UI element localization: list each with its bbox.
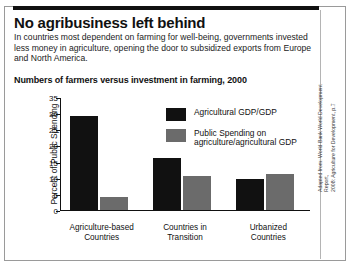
- y-axis-tick-label: 15: [18, 158, 58, 167]
- y-axis-tick-label: 0: [18, 207, 58, 216]
- bar: [266, 174, 294, 210]
- x-axis-category-label: Agriculture-based Countries: [60, 223, 143, 242]
- y-axis-tick-label: 5: [18, 190, 58, 199]
- bar-group: [61, 98, 144, 210]
- x-axis-line: [60, 210, 310, 211]
- x-axis-category-label: Countries in Transition: [143, 223, 226, 242]
- page-title: No agribusiness left behind: [14, 14, 314, 31]
- y-axis-tick-label: 20: [18, 142, 58, 151]
- chart-legend: Agricultural GDP/GDP Public Spending on …: [166, 108, 316, 155]
- y-axis-tick-label: 35: [18, 94, 58, 103]
- legend-item: Agricultural GDP/GDP: [166, 108, 316, 122]
- chart-title: Numbers of farmers versus investment in …: [14, 75, 314, 85]
- bar: [183, 176, 211, 210]
- bar: [70, 116, 98, 210]
- y-axis-tick-label: 10: [18, 174, 58, 183]
- page-subtitle: In countries most dependent on farming f…: [14, 32, 314, 64]
- legend-swatch-icon: [166, 129, 186, 142]
- x-axis-category-label: Urbanized Countries: [227, 223, 310, 242]
- y-axis-tick-label: 25: [18, 126, 58, 135]
- bar: [153, 158, 181, 210]
- bar: [100, 197, 128, 210]
- y-axis-tick-label: 30: [18, 110, 58, 119]
- legend-label: Agricultural GDP/GDP: [194, 108, 316, 117]
- legend-item: Public Spending on agriculture/agricultu…: [166, 129, 316, 148]
- bar-chart: Percent of Public Spending 0510152025303…: [14, 90, 314, 240]
- source-credit: Adapted from: World Bank World Developme…: [317, 72, 336, 192]
- top-rule-divider: [13, 6, 319, 10]
- legend-swatch-icon: [166, 108, 186, 121]
- infographic-poster: No agribusiness left behind In countries…: [0, 0, 350, 265]
- legend-label: Public Spending on agriculture/agricultu…: [194, 129, 316, 148]
- bar: [236, 179, 264, 210]
